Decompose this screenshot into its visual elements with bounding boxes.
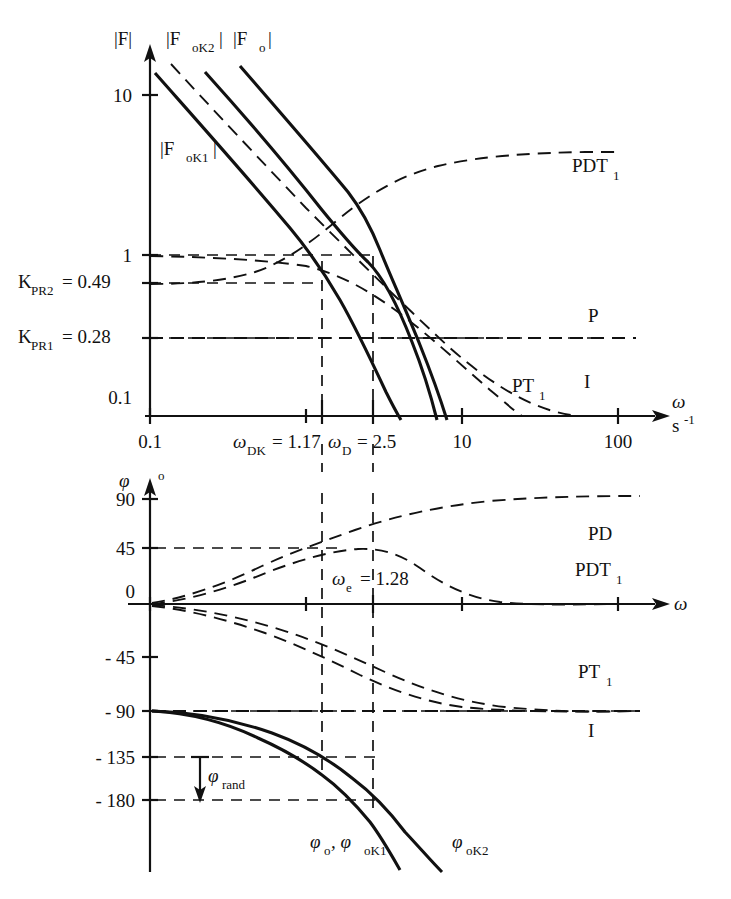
curve-label-phi-o-sub: o: [324, 843, 331, 858]
curve-label-PDT1-magnitude-base: PDT: [572, 155, 608, 176]
phi-rand-symbol: φ: [208, 765, 219, 786]
omega-dk-subscript: DK: [247, 443, 266, 458]
curve-label-FoK1-tail: |: [213, 138, 217, 159]
curve-label-FoK2-sub: oK2: [192, 40, 214, 55]
curve-label-Fo-sub: o: [259, 40, 266, 55]
magnitude-curve-FoK2: [205, 72, 437, 420]
phase-ytick-label-minus180: - 180: [95, 790, 135, 811]
curve-label-PDT1-magnitude: PDT 1: [572, 155, 620, 183]
curve-label-PT1-magnitude-sub: 1: [539, 388, 546, 403]
omega-d-subscript: D: [342, 443, 351, 458]
kpr2-value: = 0.49: [62, 271, 111, 292]
magnitude-curve-Fo: [240, 66, 447, 420]
kpr1-value: = 0.28: [62, 326, 111, 347]
curve-label-Fo-tail: |: [268, 28, 272, 49]
phase-ytick-label-minus90: - 90: [105, 701, 135, 722]
curve-label-phi-o-oK1: φ o , φ oK1: [310, 831, 386, 858]
omega-e-subscript: e: [346, 580, 352, 595]
curve-label-PDT1-magnitude-sub: 1: [613, 168, 620, 183]
omega-dk-symbol: ω: [233, 431, 246, 452]
omega-d-value: = 2.5: [357, 431, 396, 452]
curve-label-FoK2-base: |F: [166, 28, 180, 49]
bode-diagram-svg: 10 1 0.1 K PR2 = 0.49 K PR1 = 0.28 0.1 1…: [0, 0, 731, 899]
kpr2-annotation: K PR2 = 0.49: [18, 271, 111, 298]
magnitude-ytick-label-0-1: 0.1: [108, 387, 132, 408]
curve-label-PDT1-phase-base: PDT: [575, 559, 611, 580]
curve-label-Fo-base: |F: [233, 28, 247, 49]
curve-label-FoK1-base: |F: [160, 138, 174, 159]
kpr1-subscript: PR1: [31, 338, 53, 353]
phi-rand-subscript: rand: [222, 777, 246, 792]
magnitude-xtick-label-100: 100: [604, 431, 633, 452]
curve-label-PT1-phase: PT 1: [578, 661, 613, 689]
phi-rand-annotation: φ rand: [191, 757, 246, 803]
kpr2-subscript: PR2: [31, 283, 53, 298]
magnitude-xtick-label-10: 10: [453, 431, 472, 452]
magnitude-x-axis-label: ω: [672, 391, 685, 412]
curve-label-PDT1-phase: PDT 1: [575, 559, 623, 587]
kpr1-annotation: K PR1 = 0.28: [18, 326, 111, 353]
omega-e-value: = 1.28: [360, 568, 409, 589]
curve-label-I-magnitude: I: [584, 371, 590, 392]
curve-label-PT1-phase-sub: 1: [606, 674, 613, 689]
curve-label-PT1-magnitude: PT 1: [512, 375, 546, 403]
magnitude-ytick-label-10: 10: [113, 85, 132, 106]
magnitude-plot: 10 1 0.1 K PR2 = 0.49 K PR1 = 0.28 0.1 1…: [18, 28, 695, 458]
phase-curve-PT1-a: [152, 606, 640, 712]
omega-d-annotation: ω D = 2.5: [328, 431, 396, 458]
curve-label-FoK1-sub: oK1: [186, 150, 208, 165]
omega-e-symbol: ω: [332, 568, 345, 589]
curve-label-PD-phase: PD: [588, 523, 612, 544]
curve-label-phi-oK1-sub: oK1: [364, 843, 386, 858]
curve-label-PDT1-phase-sub: 1: [616, 572, 623, 587]
phase-x-axis-label: ω: [674, 593, 687, 614]
kpr2-symbol: K: [18, 271, 32, 292]
omega-dk-annotation: ω DK = 1.17: [233, 431, 321, 458]
magnitude-x-axis-unit-exponent: -1: [684, 412, 695, 427]
curve-label-P-magnitude: P: [588, 305, 599, 326]
curve-label-phi-oK2: φ oK2: [452, 831, 488, 858]
phase-ytick-label-minus135: - 135: [95, 747, 135, 768]
omega-d-symbol: ω: [328, 431, 341, 452]
magnitude-xtick-label-0-1: 0.1: [138, 431, 162, 452]
phase-ytick-label-90: 90: [116, 489, 135, 510]
curve-label-phi-oK2-sub: oK2: [466, 843, 488, 858]
magnitude-ytick-label-1: 1: [123, 245, 133, 266]
curve-label-I-phase: I: [588, 720, 594, 741]
omega-e-annotation: ω e = 1.28: [332, 568, 409, 595]
magnitude-curve-PT1: [150, 256, 522, 416]
omega-dk-value: = 1.17: [272, 431, 321, 452]
phase-curve-phi-oK2: [152, 711, 442, 872]
phase-ytick-label-45: 45: [116, 538, 135, 559]
magnitude-x-axis-unit-base: s: [672, 415, 679, 436]
curve-label-FoK2: |F oK2 |: [166, 28, 223, 55]
curve-label-phi-o-base: φ: [310, 831, 321, 852]
curve-label-Fo: |F o |: [233, 28, 272, 55]
phase-y-axis-label: φ: [119, 470, 130, 491]
bode-figure: 10 1 0.1 K PR2 = 0.49 K PR1 = 0.28 0.1 1…: [0, 0, 731, 899]
magnitude-curve-FoK1: [155, 73, 401, 420]
phase-plot: 90 45 0 - 45 - 90 - 135 - 180 φ o ω ω e …: [95, 444, 687, 872]
curve-label-phi-oK1-base: , φ: [331, 831, 351, 852]
curve-label-PT1-phase-base: PT: [578, 661, 601, 682]
curve-label-phi-oK2-base: φ: [452, 831, 463, 852]
phase-ytick-label-minus45: - 45: [105, 647, 135, 668]
curve-label-PT1-magnitude-base: PT: [512, 375, 535, 396]
magnitude-y-axis-label: |F|: [114, 28, 132, 49]
phase-ytick-label-0: 0: [126, 581, 136, 602]
curve-label-FoK1: |F oK1 |: [160, 138, 217, 165]
kpr1-symbol: K: [18, 326, 32, 347]
curve-label-FoK2-tail: |: [219, 28, 223, 49]
phase-y-axis-unit: o: [158, 468, 165, 483]
